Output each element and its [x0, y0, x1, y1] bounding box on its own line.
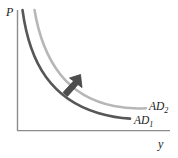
output-axis-label: y	[157, 137, 164, 151]
price-axis-label: P	[5, 5, 14, 19]
ad1-label: AD1	[133, 114, 153, 129]
ad2-label: AD2	[148, 100, 168, 115]
ad2-curve	[35, 10, 147, 108]
ad2-label-text: AD	[148, 100, 165, 112]
ad1-label-subscript: 1	[149, 120, 153, 129]
ad1-label-text: AD	[133, 114, 150, 126]
ad2-label-subscript: 2	[164, 106, 168, 115]
aggregate-demand-figure: P y AD2 AD1	[0, 0, 178, 158]
